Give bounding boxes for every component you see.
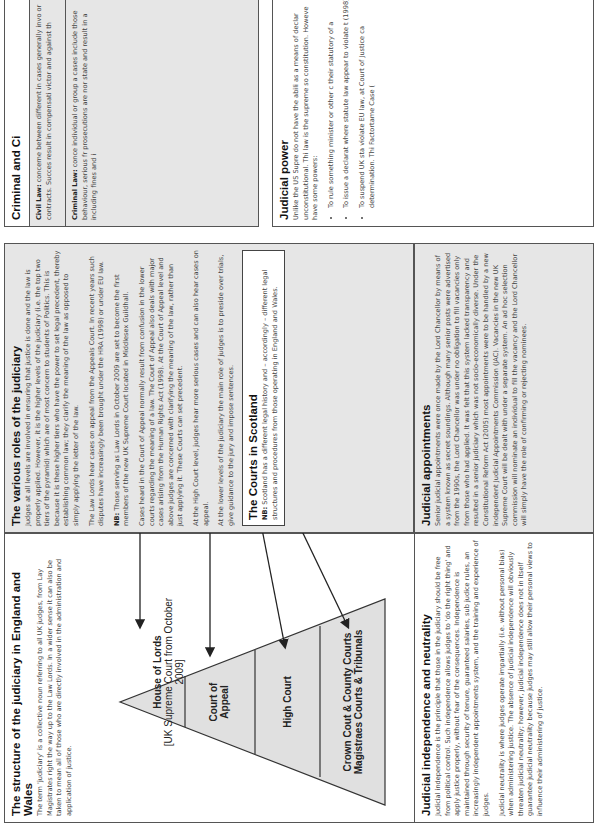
roles-p4: Cases heard in the Court of Appeal norma… — [138, 250, 186, 526]
roles-p3: NB: Those serving as Law Lords in Octobe… — [113, 250, 132, 526]
civil-criminal-section: Criminal and Ci Civil Law: concerne betw… — [4, 0, 259, 227]
independence-p2: Judicial neutrality is where judges oper… — [498, 540, 546, 816]
scotland-title: The Courts in Scotland — [247, 256, 259, 520]
tier-house-of-lords: House of Lords [UK Supreme Court from Oc… — [152, 587, 185, 757]
power-body: Unlike the US Supre do not have the abil… — [292, 0, 321, 220]
judicial-power-section: Judicial power Unlike the US Supre do no… — [272, 0, 594, 227]
appointments-body: Senior judicial appointments were once m… — [434, 250, 530, 526]
power-bullet: To issue a declarat where statute law ap… — [342, 0, 352, 208]
power-bullets: To rule something minister or other c th… — [327, 0, 377, 220]
scotland-body: NB: Scotland has a different legal histo… — [261, 256, 280, 520]
scotland-box: The Courts in Scotland NB: Scotland has … — [242, 250, 285, 526]
independence-title: Judicial independence and neutrality — [420, 540, 432, 816]
civil-criminal-title: Criminal and Ci — [10, 0, 22, 220]
power-bullet: To rule something minister or other c th… — [327, 0, 337, 208]
roles-p6: At the lower levels of the judiciary the… — [217, 250, 236, 526]
rotated-textbook-page: The structure of the judiciary in Englan… — [0, 0, 597, 827]
independence-section: Judicial independence and neutrality Jud… — [414, 533, 594, 823]
roles-p1: Judges at all levels are involved in ens… — [24, 250, 82, 526]
tier-lower-courts: Crown Cout & County Courts Magistraes Co… — [342, 617, 364, 787]
roles-title: The various roles of the judiciary — [10, 250, 22, 526]
appointments-title: Judicial appointments — [420, 250, 432, 526]
power-title: Judicial power — [278, 0, 290, 220]
roles-p2: The Law Lords hear cases on appeal from … — [88, 250, 107, 526]
roles-section: The various roles of the judiciary Judge… — [4, 243, 414, 533]
criminal-law-text: Criminal Law: conce individual or group … — [71, 0, 100, 220]
roles-p5: At the High Court level, judges hear mor… — [192, 250, 211, 526]
appointments-section: Judicial appointments Senior judicial ap… — [414, 243, 594, 533]
tier-court-of-appeal: Court of Appeal — [208, 672, 230, 732]
civil-law-text: Civil Law: concerne between different in… — [35, 0, 54, 220]
tier-high-court: High Court — [282, 652, 293, 752]
power-bullet: To suspend UK sta violate EU law, at Cou… — [358, 0, 377, 208]
independence-p1: Judicial independence is the principle t… — [434, 540, 492, 816]
